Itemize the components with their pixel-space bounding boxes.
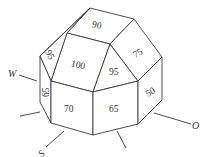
- direction-label-east: O: [192, 120, 199, 131]
- southwest-pointer-line: [20, 112, 40, 116]
- face-label-front-left: 70: [64, 104, 74, 114]
- west-pointer-line: [19, 75, 37, 81]
- face-label-side-left: 65: [41, 87, 51, 97]
- southeast-pointer-line: [117, 131, 126, 148]
- south-pointer-line: [46, 131, 64, 147]
- face-label-front-right: 65: [109, 104, 119, 114]
- east-pointer-line: [154, 113, 191, 124]
- face-label-upper-front-right: 95: [109, 67, 119, 77]
- direction-label-south: S: [36, 148, 47, 157]
- direction-label-west: W: [8, 68, 18, 79]
- dome-diagram: 90 100 95 95 75 65 70 65 50 W S O: [0, 0, 204, 157]
